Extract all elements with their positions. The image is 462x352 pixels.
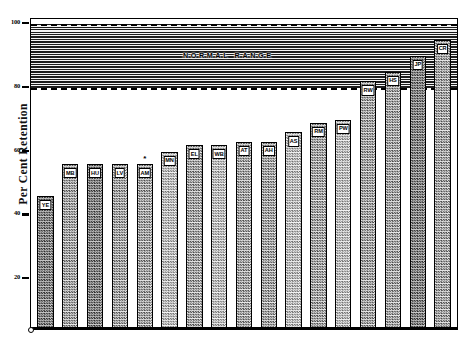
bar-label: AM bbox=[138, 168, 151, 178]
y-axis-tick-label: 100 bbox=[0, 18, 20, 25]
bar-label: WB bbox=[213, 149, 226, 159]
bar-hs: HS bbox=[385, 72, 401, 329]
bar-label: AH bbox=[263, 146, 275, 156]
bar-label: EL bbox=[189, 149, 200, 159]
bar-at: AT bbox=[236, 142, 252, 329]
bar-label: HU bbox=[89, 168, 101, 178]
y-axis-tick-mark bbox=[22, 277, 29, 279]
plot-area: NORMAL RANGE YEMBHULVAM*MNELWBATAHASRMPW… bbox=[30, 18, 458, 330]
normal-range-upper-line bbox=[31, 24, 457, 26]
bar-label: HS bbox=[387, 76, 399, 86]
bar-jp: JP bbox=[410, 56, 426, 329]
bar-hu: HU bbox=[87, 164, 103, 329]
chart-figure: Per Cent Retention 10080604020 NORMAL RA… bbox=[0, 0, 462, 352]
bar-label: RW bbox=[362, 85, 375, 95]
bar-as: AS bbox=[285, 132, 301, 329]
y-axis-tick-mark bbox=[22, 86, 29, 88]
bar-cr: CR bbox=[434, 40, 450, 329]
bar-label: PW bbox=[337, 124, 350, 134]
bar-label: CR bbox=[437, 44, 449, 54]
y-axis-tick-label: 20 bbox=[0, 273, 20, 280]
bar-label: MN bbox=[163, 156, 176, 166]
y-axis-tick-label: 60 bbox=[0, 146, 20, 153]
bar-wb: WB bbox=[211, 145, 227, 329]
bar-el: EL bbox=[186, 145, 202, 329]
bar-am: AM bbox=[137, 164, 153, 329]
bar-label: JP bbox=[412, 60, 423, 70]
asterisk-marker-am: * bbox=[143, 155, 146, 163]
axis-origin-marker bbox=[28, 327, 34, 333]
bar-label: MB bbox=[64, 168, 77, 178]
y-axis-tick-label: 80 bbox=[0, 82, 20, 89]
y-axis-tick-label: 40 bbox=[0, 209, 20, 216]
x-axis-baseline bbox=[31, 327, 457, 329]
bar-ye: YE bbox=[37, 196, 53, 329]
y-axis-tick-mark bbox=[22, 213, 29, 215]
bar-label: AS bbox=[288, 136, 300, 146]
bar-pw: PW bbox=[335, 120, 351, 329]
bar-label: RM bbox=[312, 127, 325, 137]
normal-range-label: NORMAL RANGE bbox=[183, 51, 274, 60]
bar-rm: RM bbox=[310, 123, 326, 329]
bar-mn: MN bbox=[161, 152, 177, 330]
y-axis-tick-mark bbox=[22, 22, 29, 24]
bar-lv: LV bbox=[112, 164, 128, 329]
y-axis-tick-mark bbox=[22, 150, 29, 152]
y-axis-title: Per Cent Retention bbox=[17, 84, 29, 224]
bar-rw: RW bbox=[360, 81, 376, 329]
bar-label: LV bbox=[115, 168, 126, 178]
bar-label: AT bbox=[239, 146, 250, 156]
bar-label: YE bbox=[40, 200, 51, 210]
bar-mb: MB bbox=[62, 164, 78, 329]
bar-ah: AH bbox=[261, 142, 277, 329]
